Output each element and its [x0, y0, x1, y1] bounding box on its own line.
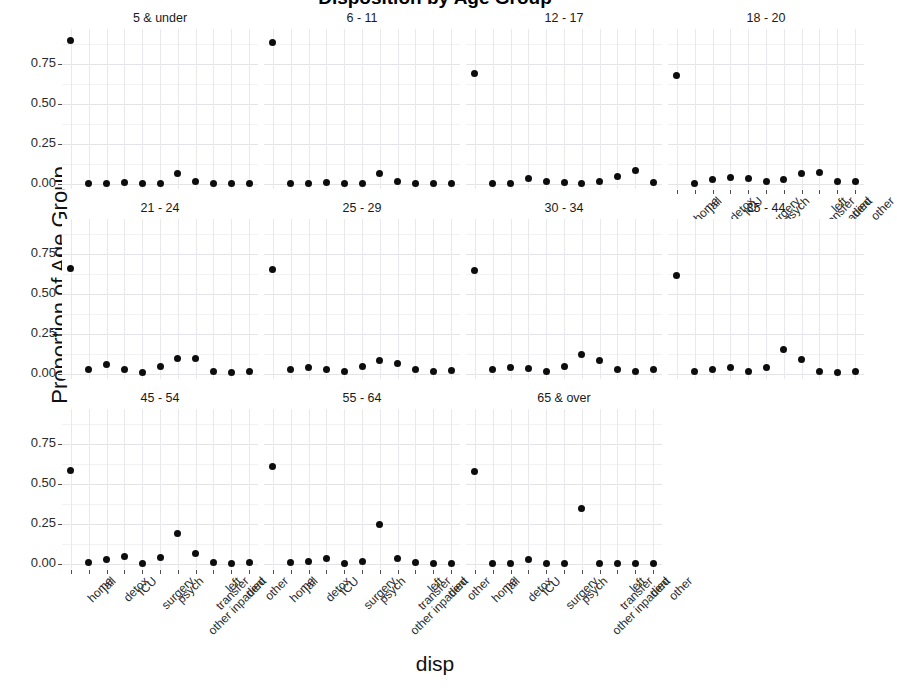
gridline-vertical: [528, 219, 529, 379]
gridline-vertical: [511, 219, 512, 379]
gridline-vertical: [802, 29, 803, 189]
x-tick-mark: [528, 570, 529, 574]
gridline-vertical: [564, 219, 565, 379]
gridline-vertical: [380, 219, 381, 379]
data-point: [709, 176, 716, 183]
x-tick-mark: [493, 570, 494, 574]
x-tick-mark: [213, 570, 214, 574]
data-point: [157, 363, 164, 370]
gridline-vertical: [107, 29, 108, 189]
gridline-vertical: [528, 29, 529, 189]
gridline-vertical: [564, 409, 565, 569]
data-point: [103, 180, 110, 187]
x-tick-mark: [695, 190, 696, 194]
data-point: [139, 560, 146, 567]
x-tick-mark: [326, 570, 327, 574]
gridline-vertical: [344, 409, 345, 569]
gridline-vertical: [546, 219, 547, 379]
facet-panel-title: 6 - 11: [264, 8, 460, 29]
x-tick-mark: [713, 190, 714, 194]
gridline-vertical: [362, 219, 363, 379]
x-tick-label: psych: [376, 574, 408, 606]
data-point: [412, 180, 419, 187]
gridline-vertical: [231, 219, 232, 379]
data-point: [341, 180, 348, 187]
gridline-vertical: [766, 29, 767, 189]
data-point: [763, 364, 770, 371]
data-point: [614, 366, 621, 373]
y-tick-mark: [58, 374, 62, 375]
y-tick-mark: [58, 104, 62, 105]
gridline-vertical: [451, 409, 452, 569]
facet-panel-plot-area: [466, 29, 662, 189]
data-point: [412, 366, 419, 373]
gridline-vertical: [766, 219, 767, 379]
data-point: [614, 560, 621, 567]
gridline-vertical: [89, 219, 90, 379]
gridline-vertical: [617, 29, 618, 189]
facet-panel-plot-area: [466, 409, 662, 569]
gridline-vertical: [582, 29, 583, 189]
y-tick-mark: [58, 444, 62, 445]
facet-panel-title: 21 - 24: [62, 198, 258, 219]
y-tick-label: 0.75: [10, 55, 56, 70]
y-tick-mark: [58, 254, 62, 255]
gridline-vertical: [451, 219, 452, 379]
gridline-vertical: [528, 409, 529, 569]
data-point: [67, 467, 74, 474]
facet-panel-plot-area: [668, 29, 864, 189]
gridline-vertical: [415, 219, 416, 379]
data-point: [394, 178, 401, 185]
gridline-vertical: [249, 409, 250, 569]
x-tick-mark: [748, 190, 749, 194]
data-point: [691, 180, 698, 187]
gridline-vertical: [380, 409, 381, 569]
gridline-vertical: [433, 219, 434, 379]
x-axis-tick-labels: homejaildetoxICUsurgerypsychother inpati…: [264, 574, 460, 654]
gridline-vertical: [309, 29, 310, 189]
data-point: [394, 555, 401, 562]
gridline-vertical: [196, 29, 197, 189]
gridline-vertical: [326, 29, 327, 189]
gridline-vertical: [249, 29, 250, 189]
data-point: [596, 560, 603, 567]
gridline-vertical: [326, 409, 327, 569]
data-point: [525, 556, 532, 563]
data-point: [359, 363, 366, 370]
data-point: [85, 180, 92, 187]
data-point: [852, 368, 859, 375]
gridline-vertical: [142, 29, 143, 189]
x-tick-mark: [855, 190, 856, 194]
x-tick-mark: [730, 190, 731, 194]
gridline-vertical: [617, 409, 618, 569]
gridline-vertical: [213, 29, 214, 189]
data-point: [471, 468, 478, 475]
gridline-vertical: [677, 219, 678, 379]
x-tick-mark: [124, 570, 125, 574]
data-point: [834, 369, 841, 376]
gridline-vertical: [213, 219, 214, 379]
data-point: [632, 167, 639, 174]
facet-row: 21 - 240.000.250.500.7525 - 2930 - 3435 …: [62, 198, 867, 388]
facet-panel-title: 35 - 44: [668, 198, 864, 219]
y-tick-mark: [58, 64, 62, 65]
data-point: [269, 266, 276, 273]
facet-panel: 12 - 17: [466, 8, 662, 198]
data-point: [341, 560, 348, 567]
gridline-vertical: [231, 29, 232, 189]
gridline-vertical: [713, 219, 714, 379]
gridline-vertical: [231, 409, 232, 569]
gridline-vertical: [493, 219, 494, 379]
x-tick-mark: [653, 570, 654, 574]
gridline-vertical: [398, 29, 399, 189]
y-tick-mark: [58, 144, 62, 145]
y-tick-mark: [58, 334, 62, 335]
data-point: [67, 37, 74, 44]
data-point: [448, 560, 455, 567]
y-tick-label: 0.75: [10, 435, 56, 450]
data-point: [448, 367, 455, 374]
facet-panel-title: 65 & over: [466, 388, 662, 409]
gridline-vertical: [398, 219, 399, 379]
y-tick-label: 0.50: [10, 95, 56, 110]
gridline-vertical: [855, 219, 856, 379]
